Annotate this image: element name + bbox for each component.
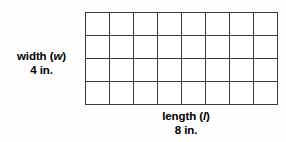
grid-cell [134,82,158,105]
length-label-name: length (l) [116,109,256,123]
grid-cell [110,36,134,59]
grid-cell [182,36,206,59]
grid-cell [158,59,182,82]
grid-table [85,12,278,105]
grid-cell [182,59,206,82]
grid-body [86,13,278,105]
grid-cell [254,13,278,36]
length-label: length (l) 8 in. [116,109,256,137]
grid-cell [182,13,206,36]
grid-cell [134,36,158,59]
grid-cell [110,13,134,36]
length-label-text: length ( [162,110,203,122]
grid-cell [134,13,158,36]
width-label-name: width (w) [0,49,83,63]
grid-cell [230,82,254,105]
width-measure: 4 in. [0,63,83,77]
grid-cell [206,36,230,59]
grid-cell [86,13,110,36]
grid-cell [86,82,110,105]
grid-cell [182,82,206,105]
grid-cell [254,82,278,105]
width-label-text-close: ) [62,50,66,62]
grid-cell [206,82,230,105]
grid-cell [158,82,182,105]
length-measure: 8 in. [116,123,256,137]
area-model-figure: width (w) 4 in. length (l) 8 in. [0,0,286,142]
grid-cell [86,36,110,59]
grid-cell [110,59,134,82]
table-row [86,36,278,59]
width-label: width (w) 4 in. [0,49,83,77]
grid-cell [134,59,158,82]
grid-cell [206,13,230,36]
width-label-text: width ( [17,50,53,62]
grid-cell [110,82,134,105]
grid-cell [254,59,278,82]
table-row [86,59,278,82]
grid-cell [254,36,278,59]
table-row [86,13,278,36]
table-row [86,82,278,105]
unit-square-grid [85,12,278,105]
width-variable: w [53,50,62,62]
grid-cell [86,59,110,82]
grid-cell [206,59,230,82]
length-label-text-close: ) [206,110,210,122]
grid-cell [158,13,182,36]
grid-cell [230,59,254,82]
grid-cell [230,13,254,36]
grid-cell [158,36,182,59]
grid-cell [230,36,254,59]
